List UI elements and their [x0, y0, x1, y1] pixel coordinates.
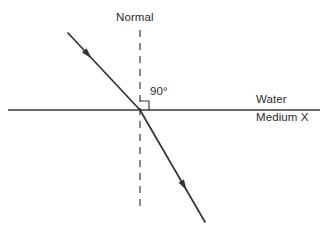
refraction-diagram: Normal 90° Water Medium X — [0, 0, 329, 234]
lower-medium-label: Medium X — [256, 111, 309, 123]
upper-medium-label: Water — [256, 93, 287, 105]
normal-label: Normal — [116, 11, 154, 23]
angle-label: 90° — [150, 85, 168, 97]
